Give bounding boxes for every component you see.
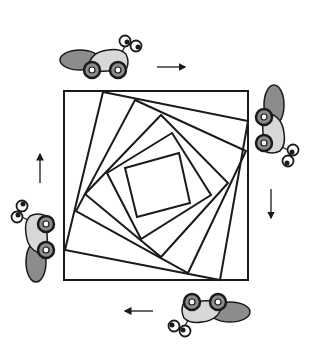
nested-squares	[64, 91, 248, 280]
car-right	[256, 85, 299, 167]
square-3	[76, 100, 246, 273]
car-top	[60, 36, 142, 79]
spiral-squares-diagram	[0, 0, 323, 352]
car-bottom	[169, 294, 251, 337]
square-6	[125, 153, 190, 217]
car-left	[12, 201, 55, 283]
